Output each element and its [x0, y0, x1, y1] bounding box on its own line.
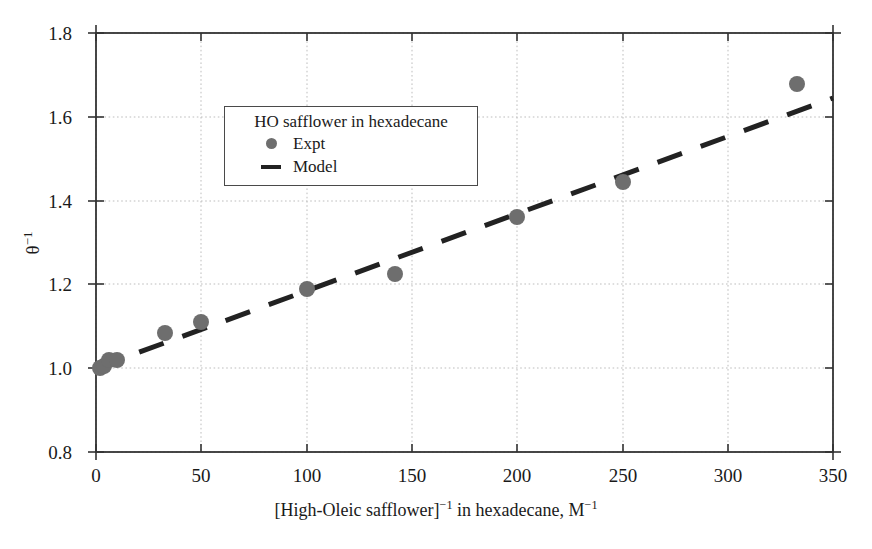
- y-axis-label-exponent: −1: [20, 232, 35, 246]
- data-point: [387, 266, 403, 282]
- axes-frame: [96, 33, 833, 452]
- y-axis-label: θ−1: [22, 198, 44, 288]
- x-axis-label-exponent-1: −1: [440, 498, 453, 512]
- xtick-label: 50: [171, 466, 231, 485]
- data-point: [615, 174, 631, 190]
- data-point: [789, 76, 805, 92]
- xtick-label: 250: [593, 466, 653, 485]
- legend-title: HO safflower in hexadecane: [225, 112, 477, 132]
- data-point: [157, 325, 173, 341]
- xtick-label: 300: [698, 466, 758, 485]
- chart-figure: 1.8 1.6 1.4 1.2 1.0 0.8 0 50 100 150 200…: [0, 0, 872, 549]
- legend-entry-label: Model: [287, 157, 337, 177]
- ytick-label: 1.8: [12, 24, 72, 43]
- xtick-label: 0: [66, 466, 126, 485]
- ytick-label: 1.0: [12, 359, 72, 378]
- legend-entry-expt: Expt: [225, 132, 477, 155]
- x-axis-label-mid: in hexadecane, M: [453, 500, 585, 520]
- data-point: [299, 281, 315, 297]
- legend-dashed-line-icon: [255, 165, 287, 169]
- legend-entry-model: Model: [225, 155, 477, 178]
- xtick-label: 350: [803, 466, 863, 485]
- data-point: [193, 314, 209, 330]
- legend-entry-label: Expt: [287, 134, 325, 154]
- xtick-label: 100: [277, 466, 337, 485]
- ytick-label: 0.8: [12, 443, 72, 462]
- x-axis-label: [High-Oleic safflower]−1 in hexadecane, …: [0, 500, 872, 521]
- x-axis-label-pre: [High-Oleic safflower]: [274, 500, 439, 520]
- grid-lines: [96, 33, 833, 452]
- ytick-label: 1.6: [12, 108, 72, 127]
- data-point: [109, 352, 125, 368]
- data-point: [509, 209, 525, 225]
- xtick-label: 200: [487, 466, 547, 485]
- legend-marker-dot-icon: [255, 138, 287, 149]
- xtick-label: 150: [382, 466, 442, 485]
- x-axis-label-exponent-2: −1: [585, 498, 598, 512]
- chart-legend: HO safflower in hexadecane Expt Model: [224, 106, 478, 186]
- y-axis-label-symbol: θ: [22, 245, 43, 254]
